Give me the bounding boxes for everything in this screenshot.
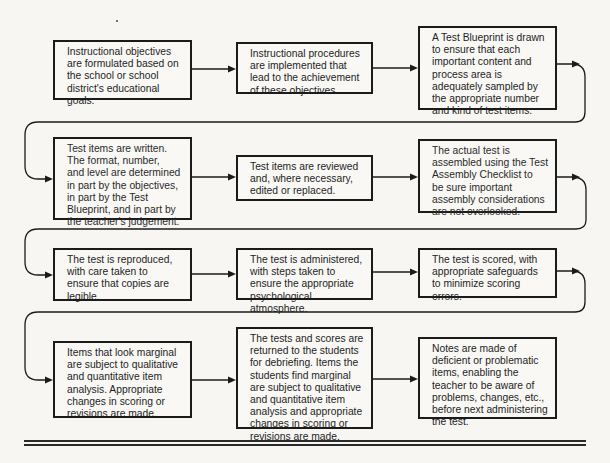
bottom-rule-lower [24, 444, 586, 446]
step-7-test-reproduced: The test is reproduced, with care taken … [53, 248, 192, 301]
arrow-4-to-5 [191, 174, 236, 181]
arrow-2-to-3 [372, 65, 418, 72]
arrow-11-to-12 [372, 376, 418, 383]
step-11-debriefing: The tests and scores are returned to the… [236, 327, 373, 429]
step-12-notes-made: Notes are made of deficient or problemat… [418, 337, 557, 419]
arrow-8-to-9 [372, 269, 418, 276]
step-6-test-assembled: The actual test is assembled using the T… [418, 139, 557, 213]
step-2-procedures-implemented: Instructional procedures are implemented… [236, 42, 373, 94]
flowchart-canvas: Instructional objectives are formulated … [0, 0, 610, 463]
step-5-items-reviewed: Test items are reviewed and, where neces… [236, 155, 373, 201]
arrow-5-to-6 [372, 174, 418, 181]
step-10-item-analysis: Items that look marginal are subject to … [53, 341, 192, 418]
arrow-10-to-11 [191, 377, 236, 384]
step-1-objectives-formulated: Instructional objectives are formulated … [53, 40, 192, 100]
arrow-1-to-2 [191, 66, 236, 73]
bottom-rule-upper [24, 440, 586, 442]
arrow-7-to-8 [191, 271, 236, 278]
step-9-test-scored: The test is scored, with appropriate saf… [418, 248, 557, 298]
step-4-items-written: Test items are written. The format, numb… [53, 137, 192, 220]
step-3-test-blueprint: A Test Blueprint is drawn to ensure that… [418, 26, 557, 110]
step-8-test-administered: The test is administered, with steps tak… [236, 248, 373, 300]
